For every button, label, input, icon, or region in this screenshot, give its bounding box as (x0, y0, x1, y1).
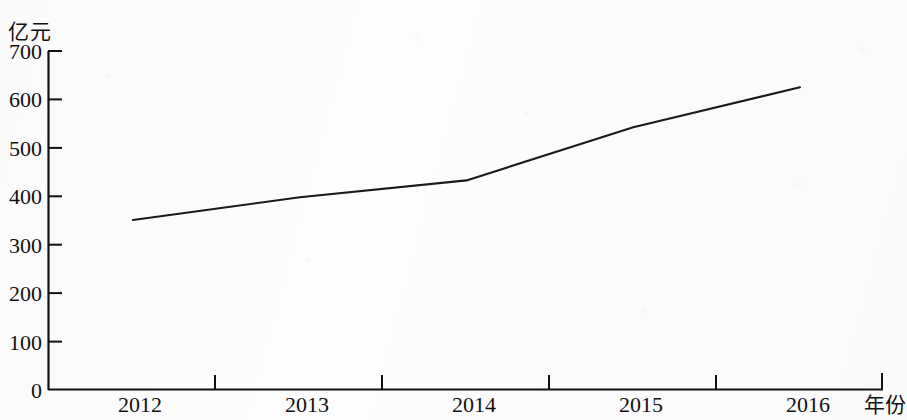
y-axis-ticks (48, 51, 62, 342)
x-axis-ticks (215, 373, 882, 389)
plot-area (0, 0, 907, 420)
chart-figure: 亿元 700 600 500 400 300 200 100 0 2012 20… (0, 0, 907, 420)
data-series-line (133, 87, 800, 220)
